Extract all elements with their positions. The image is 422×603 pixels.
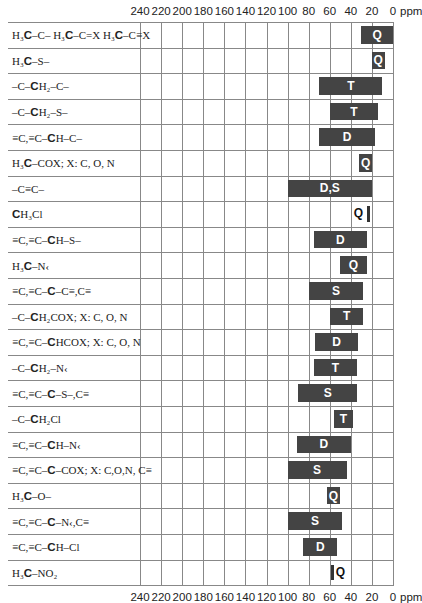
shift-range-bar: S — [288, 512, 343, 530]
shift-range-bar: Q — [340, 256, 366, 274]
row-label: ≡C,≡C–CH–C– — [12, 126, 82, 149]
row-divider — [8, 278, 394, 279]
formula-text: –S–,C≡ — [56, 388, 89, 400]
formula-text: ≡C,≡C– — [12, 464, 47, 476]
formula-text: H₂COX; X: C, O, N — [39, 311, 128, 323]
row-divider — [8, 534, 394, 535]
carbon-atom-label: C — [47, 464, 55, 476]
carbon-atom-label: C — [24, 55, 32, 67]
shift-range-bar: Q — [359, 154, 372, 172]
carbon-atom-label: C — [24, 157, 32, 169]
x-tick-label-top: 0 — [390, 5, 396, 17]
formula-text: H₃ — [12, 157, 24, 169]
formula-text: –NO₂ — [32, 567, 57, 579]
formula-text: H₃ — [12, 260, 24, 272]
row-divider — [8, 201, 394, 202]
formula-text: ≡C,≡C– — [12, 541, 47, 553]
x-tick-label-top: 100 — [278, 5, 297, 17]
x-tick-label-top: 40 — [344, 5, 357, 17]
carbon-atom-label: C — [47, 516, 55, 528]
formula-text: H₃ — [12, 55, 24, 67]
formula-text: –N‹,C≡ — [56, 516, 89, 528]
row-label: ≡C,≡C–CHCOX; X: C, O, N — [12, 331, 141, 354]
row-label: ≡C,≡C–CH–Cl — [12, 536, 80, 559]
formula-text: –S– — [32, 55, 49, 67]
row-label: ≡C,≡C–CH–N‹ — [12, 434, 81, 457]
formula-text: –C– — [12, 80, 30, 92]
carbon-atom-label: C — [47, 336, 55, 348]
row-label: –C–CH₂Cl — [12, 408, 61, 431]
row-label: H₃C–C– H₃C–C=X H₃C–C≡X — [12, 24, 150, 47]
row-label: H₃C–COX; X: C, O, N — [12, 152, 115, 175]
x-tick-label-bottom: 140 — [236, 591, 255, 603]
x-tick-label-top: 80 — [302, 5, 315, 17]
formula-text: –C≡C– — [12, 183, 44, 195]
x-tick-label-bottom: 180 — [194, 591, 213, 603]
formula-text: H–S– — [56, 234, 81, 246]
carbon-atom-label: C — [47, 132, 55, 144]
formula-text: H₃ — [12, 567, 24, 579]
row-label: –C–CH₂–S– — [12, 101, 68, 124]
formula-text: H–N‹ — [56, 439, 81, 451]
shift-range-bar: D — [314, 231, 367, 249]
carbon-atom-label: C — [24, 29, 32, 41]
formula-text: H–Cl — [56, 541, 80, 553]
shift-range-bar: T — [314, 359, 357, 377]
shift-range-bar: D — [319, 128, 375, 146]
shift-range-bar: T — [334, 410, 353, 428]
row-divider — [8, 457, 394, 458]
row-divider — [8, 124, 394, 125]
carbon-atom-label: C — [24, 260, 32, 272]
shift-range-bar: D,S — [288, 180, 372, 198]
shift-range-bar: D — [297, 436, 351, 454]
formula-text: –C– — [12, 362, 30, 374]
formula-text: –C– — [12, 413, 30, 425]
row-label: ≡C,≡C–C–S–,C≡ — [12, 382, 89, 405]
carbon-atom-label: C — [30, 362, 38, 374]
x-tick-label-top: 240 — [130, 5, 149, 17]
x-tick-label-top: 180 — [194, 5, 213, 17]
formula-text: –COX; X: C,O,N, C≡ — [56, 464, 152, 476]
formula-text: H₂–S– — [39, 106, 68, 118]
carbon-atom-label: C — [47, 234, 55, 246]
formula-text: –C=X H₃ — [73, 29, 115, 41]
multiplicity-label: Q — [354, 206, 363, 220]
carbon-atom-label: C — [30, 413, 38, 425]
row-divider — [8, 406, 394, 407]
x-tick-label-top: 140 — [236, 5, 255, 17]
row-label: H₃C–N‹ — [12, 254, 49, 277]
formula-text: –O– — [32, 490, 51, 502]
formula-text: ≡C,≡C– — [12, 516, 47, 528]
row-label: H₃C–NO₂ — [12, 562, 57, 585]
row-divider — [8, 176, 394, 177]
row-divider — [8, 150, 394, 151]
shift-tick — [367, 206, 370, 222]
shift-range-bar: S — [288, 461, 347, 479]
row-label: ≡C,≡C–CH–S– — [12, 229, 81, 252]
row-label: ≡C,≡C–C–C≡,C≡ — [12, 280, 91, 303]
x-tick-label-bottom: 240 — [130, 591, 149, 603]
shift-range-bar: Q — [327, 487, 341, 505]
shift-tick — [331, 565, 334, 581]
formula-text: ≡C,≡C– — [12, 132, 47, 144]
formula-text: –COX; X: C, O, N — [32, 157, 115, 169]
formula-text: ≡C,≡C– — [12, 336, 47, 348]
carbon-atom-label: C — [47, 541, 55, 553]
shift-range-bar: D — [315, 333, 358, 351]
carbon-atom-label: C — [30, 311, 38, 323]
x-tick-label-bottom: 100 — [278, 591, 297, 603]
formula-text: H–C– — [56, 132, 82, 144]
formula-text: ≡C,≡C– — [12, 285, 47, 297]
x-tick-label-top: 160 — [215, 5, 234, 17]
row-label: H₃C–S– — [12, 50, 49, 73]
shift-range-bar: T — [319, 77, 382, 95]
formula-text: H₃ — [12, 490, 24, 502]
formula-text: –C– — [12, 106, 30, 118]
formula-text: –C≡X — [123, 29, 150, 41]
formula-text: ≡C,≡C– — [12, 439, 47, 451]
shift-range-bar: S — [298, 384, 357, 402]
x-unit-label-bottom: ppm — [400, 591, 422, 603]
x-tick-label-bottom: 200 — [173, 591, 192, 603]
row-label: ≡C,≡C–C–N‹,C≡ — [12, 510, 89, 533]
row-label: –C≡C– — [12, 178, 44, 201]
